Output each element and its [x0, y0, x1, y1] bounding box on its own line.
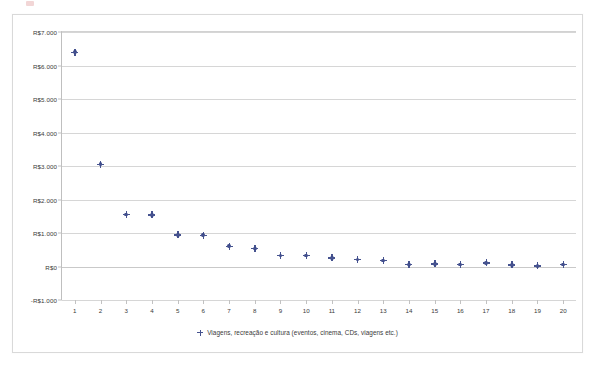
data-point-core — [201, 233, 205, 237]
gridline — [62, 267, 576, 268]
x-axis-tick-label: 3 — [125, 307, 128, 314]
data-point-marker[interactable] — [483, 259, 490, 266]
x-axis-tick-mark — [178, 300, 179, 304]
x-axis-tick-label: 1 — [73, 307, 76, 314]
data-point-marker[interactable] — [71, 49, 78, 56]
data-point-marker[interactable] — [405, 261, 412, 268]
data-point-marker[interactable] — [200, 232, 207, 239]
y-axis-tick-label: R$4.000 — [33, 129, 57, 136]
x-axis-tick-mark — [75, 300, 76, 304]
data-point-marker[interactable] — [303, 252, 310, 259]
y-axis-tick-label: R$2.000 — [33, 196, 57, 203]
y-axis-tick-label: R$0 — [45, 263, 57, 270]
data-point-marker[interactable] — [560, 261, 567, 268]
gridline — [62, 166, 576, 167]
data-point-core — [99, 162, 103, 166]
data-point-marker[interactable] — [508, 261, 515, 268]
legend-cross-marker-icon — [197, 330, 203, 336]
x-axis-tick-label: 4 — [150, 307, 153, 314]
y-axis-tick-mark — [58, 266, 62, 267]
x-axis-tick-mark — [358, 300, 359, 304]
data-point-marker[interactable] — [226, 243, 233, 250]
gridline — [62, 233, 576, 234]
data-point-marker[interactable] — [97, 161, 104, 168]
data-point-marker[interactable] — [174, 231, 181, 238]
data-point-core — [304, 254, 308, 258]
data-point-core — [433, 262, 437, 266]
x-axis-tick-label: 10 — [303, 307, 310, 314]
data-point-core — [176, 233, 180, 237]
data-point-core — [407, 263, 411, 267]
gridline — [62, 99, 576, 100]
y-axis-tick-label: R$7.000 — [33, 29, 57, 36]
x-axis-tick-label: 6 — [202, 307, 205, 314]
x-axis-tick-mark — [409, 300, 410, 304]
y-axis-tick-label: R$6.000 — [33, 62, 57, 69]
data-point-marker[interactable] — [431, 260, 438, 267]
y-axis-tick-mark — [58, 32, 62, 33]
data-point-core — [484, 261, 488, 265]
data-point-core — [253, 247, 257, 251]
x-axis-tick-mark — [332, 300, 333, 304]
x-axis-tick-label: 17 — [483, 307, 490, 314]
gridline — [62, 133, 576, 134]
x-axis-tick-mark — [229, 300, 230, 304]
data-point-core — [381, 259, 385, 263]
data-point-core — [561, 263, 565, 267]
y-axis-tick-mark — [58, 233, 62, 234]
data-point-core — [73, 50, 77, 54]
data-point-core — [510, 263, 514, 267]
data-point-core — [124, 213, 128, 217]
x-axis-tick-mark — [460, 300, 461, 304]
y-axis-tick-mark — [58, 166, 62, 167]
y-axis-tick-mark — [58, 65, 62, 66]
data-point-core — [150, 213, 154, 217]
y-axis-tick-label: -R$1.000 — [31, 297, 57, 304]
data-point-core — [279, 254, 283, 258]
data-point-marker[interactable] — [148, 211, 155, 218]
x-axis-tick-label: 15 — [431, 307, 438, 314]
y-axis-tick-mark — [58, 199, 62, 200]
page-corner-mark — [26, 1, 34, 6]
data-point-core — [227, 244, 231, 248]
gridline — [62, 66, 576, 67]
x-axis-tick-label: 14 — [405, 307, 412, 314]
gridline — [62, 32, 576, 33]
y-axis-tick-label: R$5.000 — [33, 96, 57, 103]
data-point-marker[interactable] — [251, 245, 258, 252]
data-point-core — [536, 264, 540, 268]
data-point-marker[interactable] — [277, 252, 284, 259]
x-axis-tick-label: 18 — [508, 307, 515, 314]
chart-plot-wrapper: R$7.000R$6.000R$5.000R$4.000R$3.000R$2.0… — [13, 15, 582, 352]
x-axis-tick-mark — [563, 300, 564, 304]
data-point-marker[interactable] — [457, 261, 464, 268]
x-axis-tick-label: 20 — [560, 307, 567, 314]
data-point-marker[interactable] — [534, 262, 541, 269]
y-axis-tick-mark — [58, 99, 62, 100]
data-point-core — [458, 263, 462, 267]
x-axis-tick-mark — [306, 300, 307, 304]
data-point-marker[interactable] — [123, 211, 130, 218]
x-axis-tick-mark — [152, 300, 153, 304]
data-point-marker[interactable] — [354, 256, 361, 263]
x-axis-tick-label: 8 — [253, 307, 256, 314]
gridline — [62, 300, 576, 301]
x-axis-tick-label: 12 — [354, 307, 361, 314]
plot-area: R$7.000R$6.000R$5.000R$4.000R$3.000R$2.0… — [61, 31, 576, 300]
x-axis-tick-mark — [537, 300, 538, 304]
y-axis-tick-mark — [58, 300, 62, 301]
x-axis-tick-label: 13 — [380, 307, 387, 314]
x-axis-tick-label: 11 — [329, 307, 335, 314]
x-axis-tick-mark — [512, 300, 513, 304]
x-axis-tick-mark — [101, 300, 102, 304]
data-point-marker[interactable] — [380, 257, 387, 264]
x-axis-tick-mark — [383, 300, 384, 304]
x-axis-tick-mark — [435, 300, 436, 304]
x-axis-tick-mark — [486, 300, 487, 304]
chart-legend: Viagens, recreação e cultura (eventos, c… — [13, 329, 582, 336]
y-axis-tick-label: R$3.000 — [33, 163, 57, 170]
x-axis-tick-label: 9 — [279, 307, 282, 314]
data-point-core — [330, 256, 334, 260]
data-point-marker[interactable] — [328, 254, 335, 261]
x-axis-tick-label: 16 — [457, 307, 464, 314]
